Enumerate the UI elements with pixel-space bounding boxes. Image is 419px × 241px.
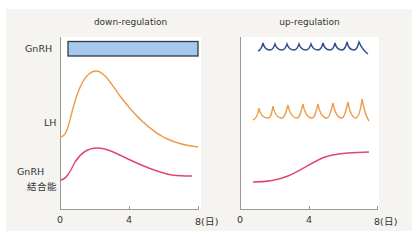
gnrh-continuous-bar bbox=[68, 42, 198, 57]
right-gnrh-pulse-curve bbox=[258, 42, 368, 54]
chart-graphics bbox=[0, 0, 419, 241]
left-axes bbox=[60, 37, 199, 210]
left-binding-curve bbox=[60, 148, 192, 180]
left-lh-curve bbox=[60, 71, 198, 147]
right-binding-curve bbox=[253, 152, 369, 182]
right-lh-pulse-curve bbox=[253, 99, 369, 121]
right-axes bbox=[240, 37, 378, 210]
